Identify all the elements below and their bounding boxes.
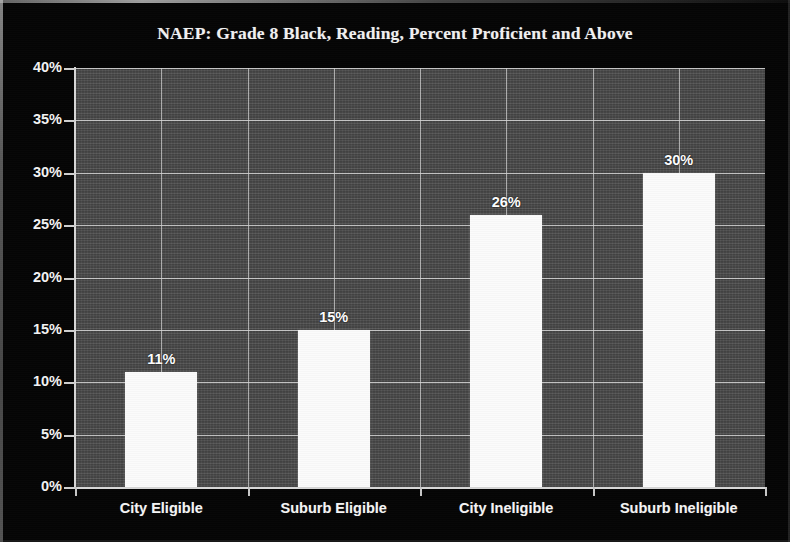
y-tick-mark [64, 68, 75, 70]
x-category-label: Suburb Eligible [244, 500, 424, 516]
x-category-label: City Ineligible [416, 500, 596, 516]
bar[interactable] [125, 372, 197, 487]
y-tick-label: 35% [4, 111, 62, 127]
y-tick-label: 20% [4, 269, 62, 285]
chart-figure: NAEP: Grade 8 Black, Reading, Percent Pr… [0, 0, 790, 542]
y-tick-mark [64, 330, 75, 332]
y-axis-tick-labels: 0%5%10%15%20%25%30%35%40% [0, 0, 62, 542]
y-tick-mark [64, 435, 75, 437]
y-tick-mark [64, 173, 75, 175]
x-tick-mark [420, 487, 422, 496]
x-category-label: Suburb Ineligible [589, 500, 769, 516]
x-tick-mark [248, 487, 250, 496]
scan-edge-top [0, 0, 790, 3]
bar[interactable] [643, 173, 715, 487]
y-tick-label: 10% [4, 373, 62, 389]
y-tick-label: 5% [4, 426, 62, 442]
bar-value-label: 11% [116, 351, 206, 367]
y-tick-label: 0% [4, 478, 62, 494]
chart-title: NAEP: Grade 8 Black, Reading, Percent Pr… [0, 23, 790, 44]
bar[interactable] [470, 215, 542, 487]
y-tick-label: 30% [4, 164, 62, 180]
y-tick-mark [64, 487, 75, 489]
y-tick-mark [64, 278, 75, 280]
bar[interactable] [298, 330, 370, 487]
y-tick-mark [64, 120, 75, 122]
x-tick-mark [765, 487, 767, 496]
plot-area [75, 68, 765, 487]
gridline-vertical [420, 68, 421, 487]
y-tick-mark [64, 225, 75, 227]
x-tick-mark [75, 487, 77, 496]
y-tick-label: 40% [4, 59, 62, 75]
bar-value-label: 30% [634, 152, 724, 168]
bar-value-label: 26% [461, 194, 551, 210]
y-tick-label: 15% [4, 321, 62, 337]
x-category-label: City Eligible [71, 500, 251, 516]
y-tick-mark [64, 382, 75, 384]
gridline-vertical [248, 68, 249, 487]
bar-value-label: 15% [289, 309, 379, 325]
x-axis-line [64, 487, 767, 489]
gridline-vertical [593, 68, 594, 487]
x-tick-mark [593, 487, 595, 496]
y-tick-label: 25% [4, 216, 62, 232]
